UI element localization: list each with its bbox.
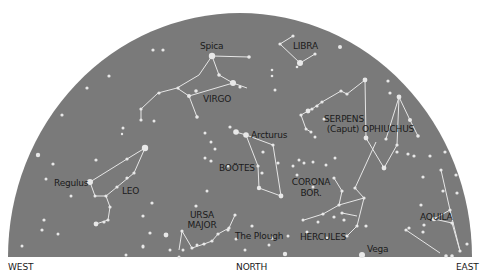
label-leo: LEO xyxy=(122,186,139,196)
star-icon xyxy=(256,164,259,167)
star-icon xyxy=(397,95,402,100)
star-icon xyxy=(334,157,337,160)
label-serpens-caput: (Caput) xyxy=(327,124,359,134)
star-icon xyxy=(339,89,342,92)
star-icon xyxy=(250,224,253,227)
star-icon xyxy=(416,134,420,138)
star-icon xyxy=(395,143,398,146)
star-icon xyxy=(412,154,415,157)
star-icon xyxy=(187,94,191,98)
star-icon xyxy=(428,154,431,157)
label-ursa-major: MAJOR xyxy=(188,220,217,230)
star-icon xyxy=(274,89,277,92)
star-icon xyxy=(107,74,110,77)
star-icon xyxy=(450,254,454,258)
star-icon xyxy=(313,52,316,55)
star-icon xyxy=(21,245,24,248)
star-icon xyxy=(94,222,99,227)
star-icon xyxy=(108,205,111,208)
star-icon xyxy=(340,211,343,214)
label-ursa: URSA xyxy=(190,210,214,220)
star-icon xyxy=(465,242,468,245)
label-regulus: Regulus xyxy=(54,178,88,188)
star-icon xyxy=(407,226,410,229)
star-icon xyxy=(384,137,387,140)
star-icon xyxy=(125,157,128,160)
star-icon xyxy=(209,53,215,59)
star-icon xyxy=(421,175,424,178)
star-icon xyxy=(70,195,73,198)
star-icon xyxy=(364,136,369,141)
label-serpens: SERPENS xyxy=(324,114,364,124)
star-icon xyxy=(125,254,128,257)
star-icon xyxy=(305,128,308,131)
star-icon xyxy=(312,161,315,164)
star-icon xyxy=(364,224,367,227)
star-icon xyxy=(353,186,356,189)
star-icon xyxy=(287,235,290,238)
star-icon xyxy=(279,194,284,199)
star-icon xyxy=(57,233,60,236)
star-icon xyxy=(150,201,153,204)
star-icon xyxy=(299,113,302,116)
star-icon xyxy=(303,162,306,165)
star-icon xyxy=(382,166,387,171)
star-icon xyxy=(388,91,391,94)
star-icon xyxy=(142,245,145,248)
star-icon xyxy=(210,141,213,144)
star-icon xyxy=(122,127,125,130)
star-icon xyxy=(195,115,199,119)
star-icon xyxy=(315,104,318,107)
star-icon xyxy=(292,165,295,168)
star-icon xyxy=(337,203,340,206)
label-bootes: BOÖTES xyxy=(219,163,255,173)
star-icon xyxy=(276,161,279,164)
star-icon xyxy=(51,162,54,165)
star-icon xyxy=(194,89,198,93)
star-icon xyxy=(139,107,142,110)
star-icon xyxy=(169,249,172,252)
star-icon xyxy=(302,219,305,222)
star-icon xyxy=(458,249,461,252)
star-icon xyxy=(271,69,274,72)
star-icon xyxy=(332,176,335,179)
label-libra: LIBRA xyxy=(293,41,318,51)
star-icon xyxy=(421,230,424,233)
star-icon xyxy=(60,113,63,116)
star-icon xyxy=(362,196,365,199)
star-icon xyxy=(238,85,241,88)
star-icon xyxy=(296,66,299,69)
sky-dome xyxy=(8,13,472,257)
label-aquila: AQUILA xyxy=(420,212,453,222)
star-icon xyxy=(340,189,343,192)
star-icon xyxy=(115,185,118,188)
star-icon xyxy=(422,223,425,226)
star-icon xyxy=(40,228,43,231)
star-icon xyxy=(268,244,271,247)
star-icon xyxy=(194,204,197,207)
star-icon xyxy=(210,239,213,242)
label-corona: CORONA xyxy=(292,177,330,187)
star-icon xyxy=(164,233,169,238)
star-icon xyxy=(161,48,164,51)
star-icon xyxy=(455,191,458,194)
star-icon xyxy=(298,159,301,162)
star-icon xyxy=(355,224,358,227)
star-icon xyxy=(216,232,219,235)
star-icon xyxy=(233,129,239,135)
star-icon xyxy=(317,221,320,224)
star-icon xyxy=(142,145,148,151)
star-icon xyxy=(132,171,135,174)
star-icon xyxy=(342,218,345,221)
star-icon xyxy=(297,60,303,66)
label-spica: Spica xyxy=(200,41,223,51)
star-icon xyxy=(244,249,247,252)
star-icon xyxy=(42,218,45,221)
star-icon xyxy=(121,133,123,135)
star-icon xyxy=(260,171,263,174)
star-icon xyxy=(325,164,328,167)
star-icon xyxy=(419,203,422,206)
star-icon xyxy=(139,118,142,121)
star-icon xyxy=(196,244,199,247)
star-icon xyxy=(278,42,281,45)
